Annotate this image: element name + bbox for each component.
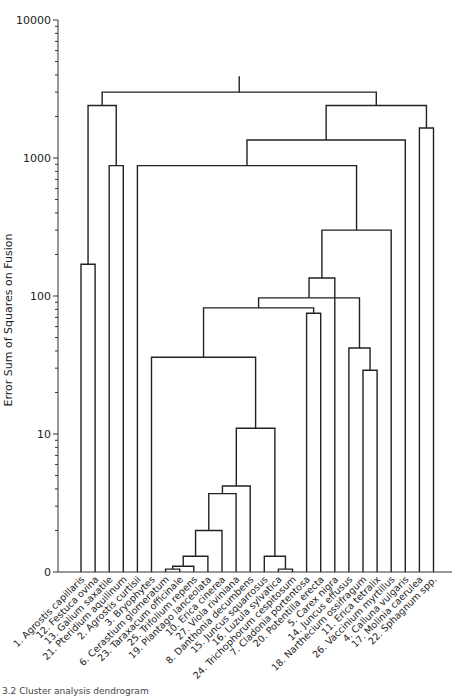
dendrogram-branches xyxy=(81,76,434,572)
cluster-merge-O xyxy=(307,313,321,572)
leaf-labels: 1. Agrostis capillaris12. Festuca ovina1… xyxy=(11,573,439,680)
cluster-merge-A xyxy=(81,264,95,572)
cluster-merge-S xyxy=(259,298,360,348)
cluster-merge-P xyxy=(204,308,314,357)
cluster-merge-U xyxy=(322,230,391,572)
cluster-merge-N xyxy=(152,357,256,572)
cluster-merge-V xyxy=(137,166,356,572)
cluster-merge-B xyxy=(109,166,123,572)
cluster-merge-Y xyxy=(326,106,426,140)
cluster-merge-R xyxy=(349,348,370,572)
dendrogram-chart: 100001000100100 Error Sum of Squares on … xyxy=(0,0,463,697)
figure-caption: 3.2 Cluster analysis dendrogram xyxy=(2,686,149,696)
cluster-merge-G xyxy=(196,530,222,572)
y-tick-label: 1000 xyxy=(23,152,51,165)
cluster-merge-Q xyxy=(363,370,377,572)
cluster-merge-W xyxy=(247,140,405,572)
y-tick-label: 100 xyxy=(30,290,51,303)
y-axis-label: Error Sum of Squares on Fusion xyxy=(2,234,15,407)
cluster-merge-F xyxy=(183,556,208,572)
cluster-merge-T xyxy=(309,278,335,572)
cluster-merge-Z xyxy=(102,92,376,105)
y-tick-label: 0 xyxy=(44,566,51,579)
cluster-merge-X xyxy=(419,128,433,572)
y-tick-label: 10 xyxy=(37,428,51,441)
cluster-merge-M xyxy=(236,428,275,556)
y-tick-label: 10000 xyxy=(16,14,51,27)
cluster-merge-C xyxy=(88,106,116,265)
